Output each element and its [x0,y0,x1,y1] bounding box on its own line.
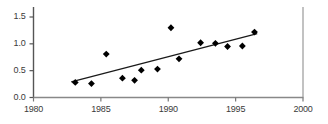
scatter-chart: 0.00.51.01.5 19801985199019952000 [0,0,328,124]
data-point-marker [138,67,145,74]
y-tick-label: 0.0 [0,92,26,102]
x-tick-label: 1985 [81,104,121,114]
data-point-marker [197,39,204,46]
trend-line-segment [71,34,257,82]
data-point-marker [239,43,246,50]
data-point-marker [119,75,126,82]
x-tick-label: 1980 [14,104,54,114]
data-point-marker [154,66,161,73]
y-tick-label: 0.5 [0,65,26,75]
trend-line [71,34,257,82]
x-tick-label: 1995 [216,104,256,114]
data-point-marker [131,77,138,84]
data-points [72,24,258,87]
data-point-marker [224,43,231,50]
x-tick-label: 2000 [283,104,323,114]
data-point-marker [88,80,95,87]
y-tick-label: 1.5 [0,11,26,21]
data-point-marker [168,24,175,31]
data-point-marker [176,55,183,62]
x-tick-label: 1990 [148,104,188,114]
data-point-marker [103,51,110,58]
y-tick-label: 1.0 [0,38,26,48]
